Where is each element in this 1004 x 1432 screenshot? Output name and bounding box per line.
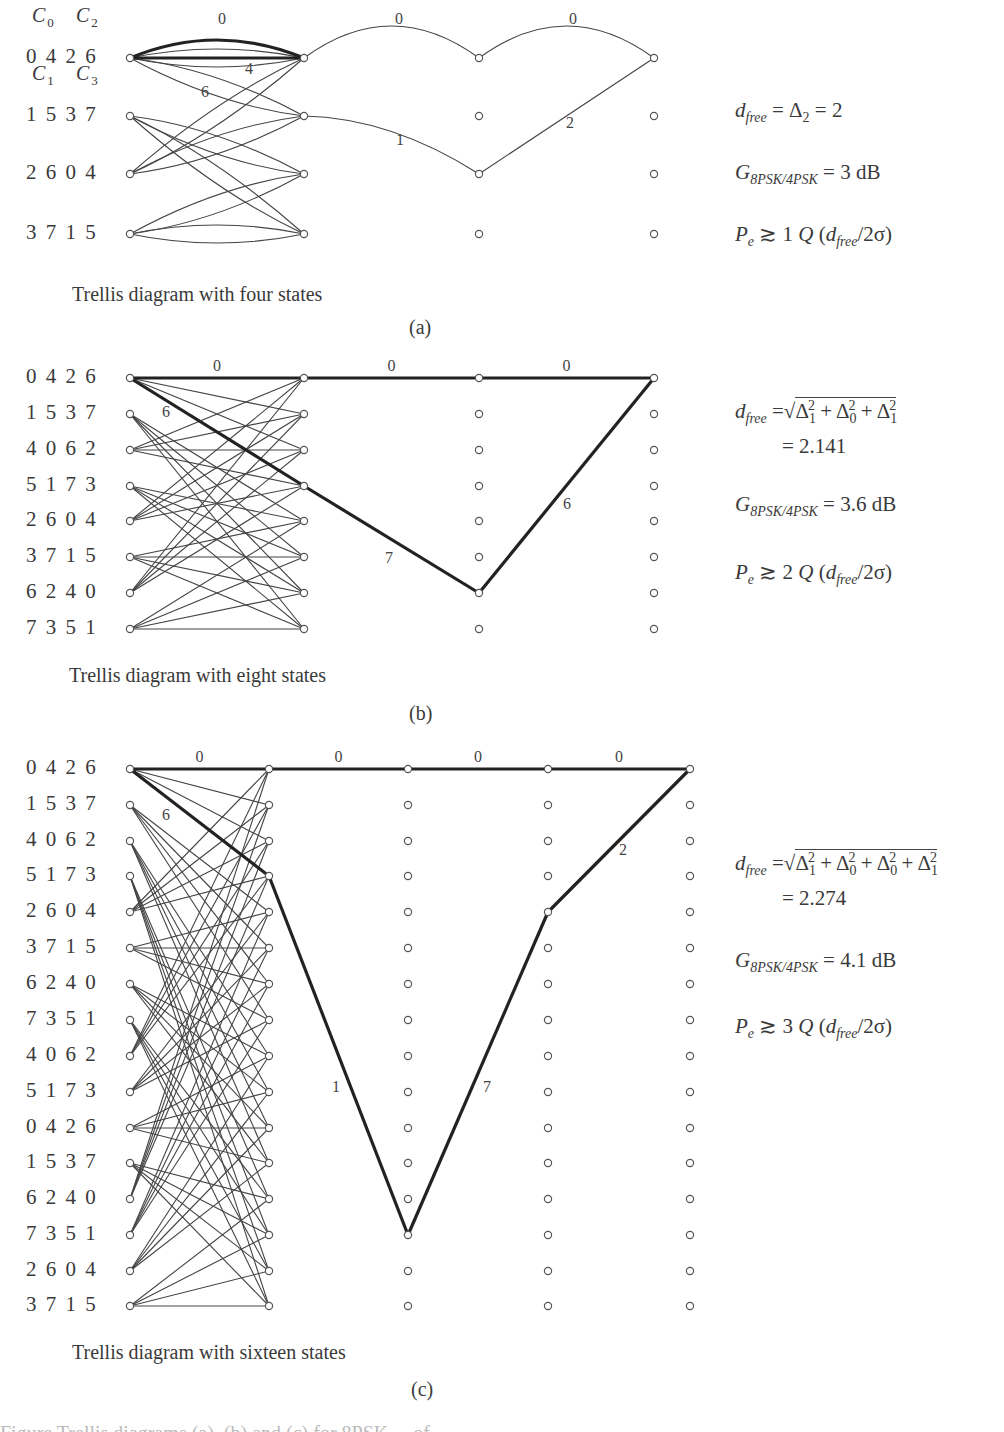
error-path-branch <box>269 876 408 1235</box>
eq-a-pe: Pe ≳ 1 Q (dfree/2σ) <box>735 222 892 250</box>
trellis-branch <box>130 769 269 912</box>
state-label: 2 6 0 4 <box>26 1257 98 1282</box>
trellis-node <box>404 1231 411 1238</box>
trellis-node <box>475 589 482 596</box>
state-label: 1 5 3 7 <box>26 102 98 127</box>
eq-c-dfree: dfree =√Δ12 + Δ02 + Δ02 + Δ12 <box>735 850 937 879</box>
caption-c: Trellis diagram with sixteen states <box>72 1341 346 1364</box>
truncated-figure-caption: Figure Trellis diagrams (a), (b) and (c)… <box>0 1418 1004 1432</box>
state-label: 2 6 0 4 <box>26 898 98 923</box>
zero-path-branch <box>479 26 654 58</box>
state-label: 4 0 6 2 <box>26 436 98 461</box>
trellis-node <box>300 446 307 453</box>
trellis-node <box>475 374 482 381</box>
trellis-node <box>404 1267 411 1274</box>
trellis-node <box>300 374 307 381</box>
trellis-node <box>300 517 307 524</box>
trellis-node <box>686 1088 693 1095</box>
state-label: 1 5 3 7 <box>26 1149 98 1174</box>
trellis-node <box>404 872 411 879</box>
error-path-branch <box>408 912 548 1235</box>
trellis-node <box>265 1159 272 1166</box>
state-label: 6 2 4 0 <box>26 1185 98 1210</box>
eq-a-gain: G8PSK/4PSK = 3 dB <box>735 160 880 188</box>
trellis-node <box>126 1159 133 1166</box>
trellis-node <box>265 801 272 808</box>
trellis-node <box>126 1124 133 1131</box>
state-label: 4 0 6 2 <box>26 1042 98 1067</box>
trellis-node <box>404 1159 411 1166</box>
trellis-node <box>475 625 482 632</box>
trellis-node <box>404 1195 411 1202</box>
trellis-node <box>650 410 657 417</box>
trellis-branch <box>130 948 269 1235</box>
sublabel-c: (c) <box>411 1378 433 1401</box>
trellis-node <box>265 1124 272 1131</box>
state-label: 6 2 4 0 <box>26 579 98 604</box>
trellis-node <box>126 1088 133 1095</box>
state-label: 4 0 6 2 <box>26 827 98 852</box>
state-label: 1 5 3 7 <box>26 791 98 816</box>
coset-label-c2: C2 <box>76 4 100 31</box>
trellis-node <box>544 1267 551 1274</box>
branch-label: 1 <box>332 1078 340 1095</box>
branch-label: 6 <box>201 83 209 100</box>
trellis-node <box>265 1231 272 1238</box>
trellis-node <box>126 765 133 772</box>
branch-label: 2 <box>619 841 627 858</box>
trellis-node <box>475 482 482 489</box>
state-label: 3 7 1 5 <box>26 220 98 245</box>
state-label: 3 7 1 5 <box>26 934 98 959</box>
trellis-node <box>686 980 693 987</box>
branch-label: 6 <box>162 403 170 420</box>
state-label: 5 1 7 3 <box>26 472 98 497</box>
branch-label: 2 <box>566 114 574 131</box>
trellis-branch <box>130 841 269 912</box>
eq-b-dfree-value: = 2.141 <box>782 434 846 459</box>
trellis-node <box>650 589 657 596</box>
trellis-branch <box>130 234 304 243</box>
trellis-node <box>265 1302 272 1309</box>
trellis-node <box>544 872 551 879</box>
trellis-branch <box>130 769 269 1056</box>
trellis-node <box>650 625 657 632</box>
trellis-node <box>544 1016 551 1023</box>
trellis-node <box>686 944 693 951</box>
branch-label: 6 <box>162 806 170 823</box>
trellis-branch <box>130 876 269 1056</box>
trellis-node <box>126 625 133 632</box>
branch-label: 0 <box>615 748 623 765</box>
trellis-node <box>265 765 272 772</box>
state-label: 7 3 5 1 <box>26 1221 98 1246</box>
branch-label: 0 <box>213 357 221 374</box>
trellis-node <box>126 517 133 524</box>
trellis-node <box>126 872 133 879</box>
branch-label: 6 <box>563 495 571 512</box>
trellis-branch <box>130 984 269 1235</box>
error-path-branch <box>130 378 304 486</box>
trellis-node <box>126 1052 133 1059</box>
state-label: 0 4 2 6 <box>26 44 98 69</box>
trellis-node <box>265 1088 272 1095</box>
trellis-node <box>300 553 307 560</box>
trellis-node <box>475 446 482 453</box>
branch-label: 1 <box>396 131 404 148</box>
trellis-node <box>126 1231 133 1238</box>
trellis-node <box>475 553 482 560</box>
trellis-node <box>300 625 307 632</box>
trellis-branch <box>130 116 304 234</box>
branch-label: 0 <box>388 357 396 374</box>
state-label: 5 1 7 3 <box>26 1078 98 1103</box>
trellis-node <box>475 517 482 524</box>
trellis-branch <box>130 593 304 629</box>
trellis-canvas: 000124600076600001726 <box>0 0 1004 1432</box>
eq-b-dfree: dfree =√Δ12 + Δ02 + Δ12 <box>735 398 896 427</box>
trellis-branch <box>130 225 304 234</box>
trellis-node <box>686 801 693 808</box>
branch-label: 0 <box>474 748 482 765</box>
trellis-branch <box>130 58 304 174</box>
eq-b-pe: Pe ≳ 2 Q (dfree/2σ) <box>735 560 892 588</box>
caption-b: Trellis diagram with eight states <box>69 664 326 687</box>
trellis-node <box>650 446 657 453</box>
trellis-node <box>544 1124 551 1131</box>
